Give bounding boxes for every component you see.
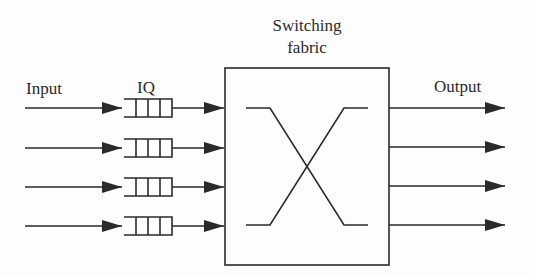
queue-3 [124, 178, 172, 196]
input-queues [124, 99, 172, 235]
fabric-label-line2: fabric [257, 39, 357, 56]
queue-1 [124, 99, 172, 117]
queue-4 [124, 217, 172, 235]
queue-to-fabric-arrows [172, 108, 224, 226]
connection-4-to-1 [246, 108, 368, 225]
input-arrows [25, 108, 122, 226]
output-label: Output [434, 78, 481, 95]
queue-2 [124, 139, 172, 157]
input-label: Input [26, 80, 62, 97]
switch-diagram: Input IQ Switching fabric Output [0, 0, 534, 275]
iq-label: IQ [137, 79, 155, 96]
crossbar-connections [246, 108, 368, 225]
output-arrows [389, 108, 505, 225]
fabric-label-line1: Switching [257, 17, 357, 34]
